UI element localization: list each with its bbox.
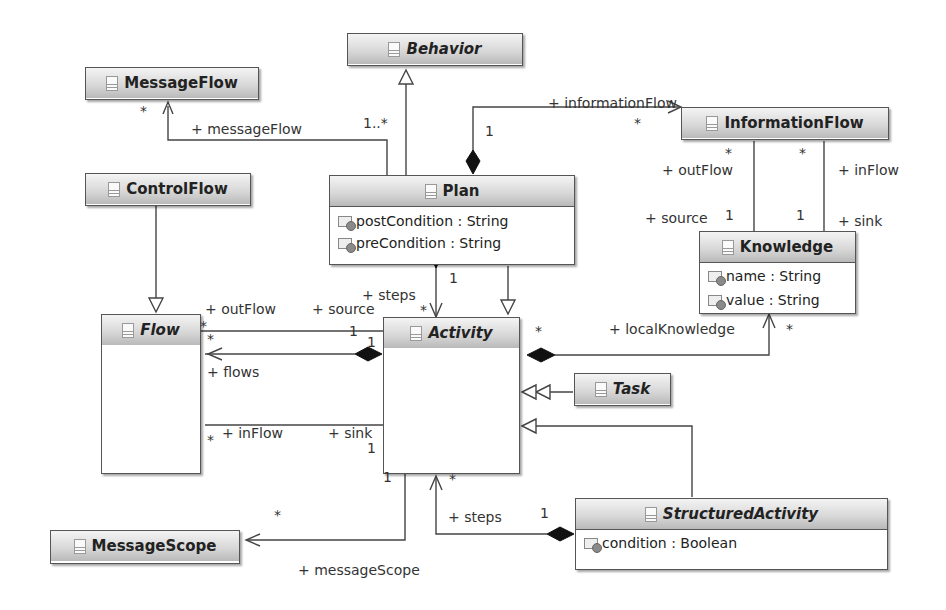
class-name: StructuredActivity: [663, 505, 818, 523]
class-header: Knowledge: [700, 232, 855, 263]
role-label: + localKnowledge: [609, 321, 735, 337]
class-name: Behavior: [406, 40, 481, 58]
role-label: + steps: [448, 509, 502, 525]
class-header: MessageScope: [51, 531, 239, 561]
multiplicity-label: *: [634, 115, 641, 131]
class-knowledge[interactable]: Knowledge name : String value : String: [699, 231, 856, 314]
multiplicity-label: *: [200, 318, 207, 334]
attribute-icon: [708, 271, 722, 282]
class-header: ControlFlow: [86, 174, 250, 204]
role-label: + source: [645, 210, 708, 226]
class-icon: [645, 507, 657, 522]
attribute-icon: [338, 216, 352, 227]
multiplicity-label: 1: [383, 469, 392, 485]
class-header: Flow: [102, 315, 200, 345]
multiplicity-label: *: [207, 432, 214, 448]
attribute[interactable]: value : String: [700, 288, 855, 312]
role-label: + sink: [838, 213, 882, 229]
uml-class-diagram: Behavior MessageFlow InformationFlow Con…: [0, 0, 946, 610]
multiplicity-label: *: [274, 507, 281, 523]
class-icon: [108, 182, 120, 197]
multiplicity-label: *: [725, 145, 732, 161]
class-name: MessageFlow: [124, 74, 238, 92]
multiplicity-label: 1..*: [363, 115, 388, 131]
class-task[interactable]: Task: [574, 373, 671, 406]
class-icon: [425, 184, 437, 199]
attribute[interactable]: postCondition : String: [330, 210, 574, 232]
class-icon: [388, 42, 400, 57]
multiplicity-label: *: [799, 145, 806, 161]
class-messageflow[interactable]: MessageFlow: [85, 67, 259, 100]
role-label: + messageScope: [298, 562, 420, 578]
multiplicity-label: *: [786, 321, 793, 337]
class-header: InformationFlow: [682, 108, 888, 138]
class-name: MessageScope: [92, 537, 217, 555]
multiplicity-label: 1: [485, 123, 494, 139]
class-header: Task: [575, 374, 670, 404]
role-label: + outFlow: [662, 162, 733, 178]
class-flow[interactable]: Flow: [101, 314, 201, 474]
attribute-label: postCondition : String: [356, 210, 508, 232]
plan-messageflow-association: [168, 106, 387, 176]
class-name: Flow: [140, 321, 180, 339]
multiplicity-label: 1: [796, 207, 805, 223]
multiplicity-label: *: [535, 323, 542, 339]
role-label: + informationFlow: [548, 95, 677, 111]
role-label: + inFlow: [838, 162, 899, 178]
attribute-label: name : String: [726, 265, 821, 287]
attribute[interactable]: condition : Boolean: [576, 532, 887, 554]
class-controlflow[interactable]: ControlFlow: [85, 173, 251, 206]
class-header: Activity: [384, 318, 519, 348]
class-icon: [74, 539, 86, 554]
role-label: + outFlow: [205, 301, 276, 317]
class-name: ControlFlow: [126, 180, 228, 198]
class-structuredactivity[interactable]: StructuredActivity condition : Boolean: [575, 498, 888, 570]
role-label: + inFlow: [222, 425, 283, 441]
attribute-icon: [338, 238, 352, 249]
role-label: + messageFlow: [191, 121, 302, 137]
class-header: StructuredActivity: [576, 499, 887, 530]
class-name: Plan: [443, 182, 480, 200]
class-header: MessageFlow: [86, 68, 258, 98]
class-icon: [122, 323, 134, 338]
attribute-label: condition : Boolean: [602, 532, 737, 554]
role-label: + flows: [207, 364, 259, 380]
attribute-label: value : String: [726, 289, 820, 311]
class-plan[interactable]: Plan postCondition : String preCondition…: [329, 175, 575, 265]
class-messagescope[interactable]: MessageScope: [50, 530, 240, 564]
attribute-label: preCondition : String: [356, 232, 501, 254]
multiplicity-label: *: [207, 331, 214, 347]
multiplicity-label: 1: [449, 270, 458, 286]
class-icon: [706, 116, 718, 131]
multiplicity-label: 1: [349, 323, 358, 339]
class-header: Behavior: [348, 34, 522, 64]
class-name: Knowledge: [740, 238, 833, 256]
class-icon: [595, 382, 607, 397]
class-behavior[interactable]: Behavior: [347, 33, 523, 66]
multiplicity-label: 1: [725, 207, 734, 223]
class-name: Activity: [428, 324, 492, 342]
attribute-icon: [584, 538, 598, 549]
class-icon: [106, 76, 118, 91]
multiplicity-label: *: [140, 103, 147, 119]
multiplicity-label: 1: [540, 505, 549, 521]
multiplicity-label: *: [449, 471, 456, 487]
class-name: InformationFlow: [724, 114, 863, 132]
class-icon: [722, 240, 734, 255]
multiplicity-label: 1: [367, 334, 376, 350]
class-header: Plan: [330, 176, 574, 207]
multiplicity-label: 1: [367, 440, 376, 456]
role-label: + source: [312, 301, 375, 317]
plan-informationflow-composition: [473, 107, 680, 152]
class-activity[interactable]: Activity: [383, 317, 520, 474]
class-icon: [410, 326, 422, 341]
attribute[interactable]: preCondition : String: [330, 232, 574, 254]
attribute-icon: [708, 295, 722, 306]
class-informationflow[interactable]: InformationFlow: [681, 107, 889, 140]
attribute[interactable]: name : String: [700, 264, 855, 288]
multiplicity-label: *: [420, 302, 427, 318]
class-name: Task: [613, 380, 650, 398]
role-label: + sink: [328, 425, 372, 441]
